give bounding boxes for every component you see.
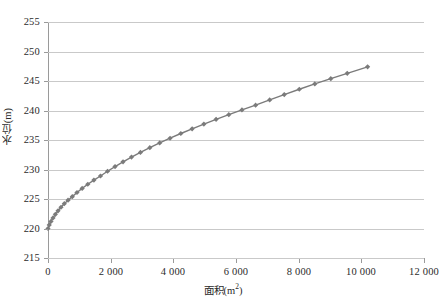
x-tick-mark-6000 [236, 259, 237, 263]
x-tick-mark-12000 [424, 259, 425, 263]
data-point-marker [226, 112, 231, 117]
data-point-marker [345, 71, 350, 76]
y-tick-mark-250 [44, 52, 48, 53]
x-tick-mark-8000 [299, 259, 300, 263]
series-polyline [48, 67, 368, 229]
y-tick-mark-235 [44, 140, 48, 141]
data-point-marker [239, 107, 244, 112]
x-axis-title-tail: ) [239, 285, 243, 296]
y-tick-label-225: 225 [0, 194, 40, 205]
data-point-marker [267, 97, 272, 102]
data-point-marker [129, 155, 134, 160]
x-tick-label-10000: 10 000 [326, 267, 396, 278]
data-point-marker [157, 140, 162, 145]
data-point-marker [178, 131, 183, 136]
data-point-marker [214, 117, 219, 122]
x-tick-mark-10000 [361, 259, 362, 263]
x-tick-label-12000: 12 000 [389, 267, 446, 278]
data-point-marker [365, 64, 370, 69]
y-tick-label-245: 245 [0, 76, 40, 87]
y-tick-label-255: 255 [0, 17, 40, 28]
y-tick-label-250: 250 [0, 47, 40, 58]
plot-area [48, 22, 424, 258]
x-tick-mark-0 [48, 259, 49, 263]
data-point-marker [253, 103, 258, 108]
data-point-marker [167, 136, 172, 141]
x-tick-label-4000: 4 000 [138, 267, 208, 278]
y-tick-mark-225 [44, 199, 48, 200]
x-tick-label-8000: 8 000 [264, 267, 334, 278]
chart-container: 水位(m) 215220225230235240245250255 02 000… [0, 0, 446, 308]
y-tick-label-240: 240 [0, 106, 40, 117]
y-tick-label-215: 215 [0, 253, 40, 264]
data-point-marker [328, 76, 333, 81]
data-point-marker [282, 92, 287, 97]
data-point-marker [312, 81, 317, 86]
y-tick-mark-255 [44, 22, 48, 23]
series-line-water-level-area [48, 22, 424, 258]
data-point-marker [147, 145, 152, 150]
x-tick-label-6000: 6 000 [201, 267, 271, 278]
y-tick-label-220: 220 [0, 224, 40, 235]
y-tick-mark-240 [44, 111, 48, 112]
x-tick-label-2000: 2 000 [76, 267, 146, 278]
data-point-marker [138, 150, 143, 155]
x-tick-label-0: 0 [13, 267, 83, 278]
y-tick-mark-230 [44, 170, 48, 171]
x-tick-mark-4000 [173, 259, 174, 263]
y-tick-mark-245 [44, 81, 48, 82]
data-point-marker [201, 121, 206, 126]
x-axis-title: 面积(m2) [0, 283, 446, 296]
y-tick-label-235: 235 [0, 135, 40, 146]
y-tick-label-230: 230 [0, 165, 40, 176]
x-tick-mark-2000 [111, 259, 112, 263]
data-point-marker [297, 87, 302, 92]
x-axis-title-text: 面积(m [204, 285, 236, 296]
data-point-marker [190, 126, 195, 131]
y-tick-mark-220 [44, 229, 48, 230]
